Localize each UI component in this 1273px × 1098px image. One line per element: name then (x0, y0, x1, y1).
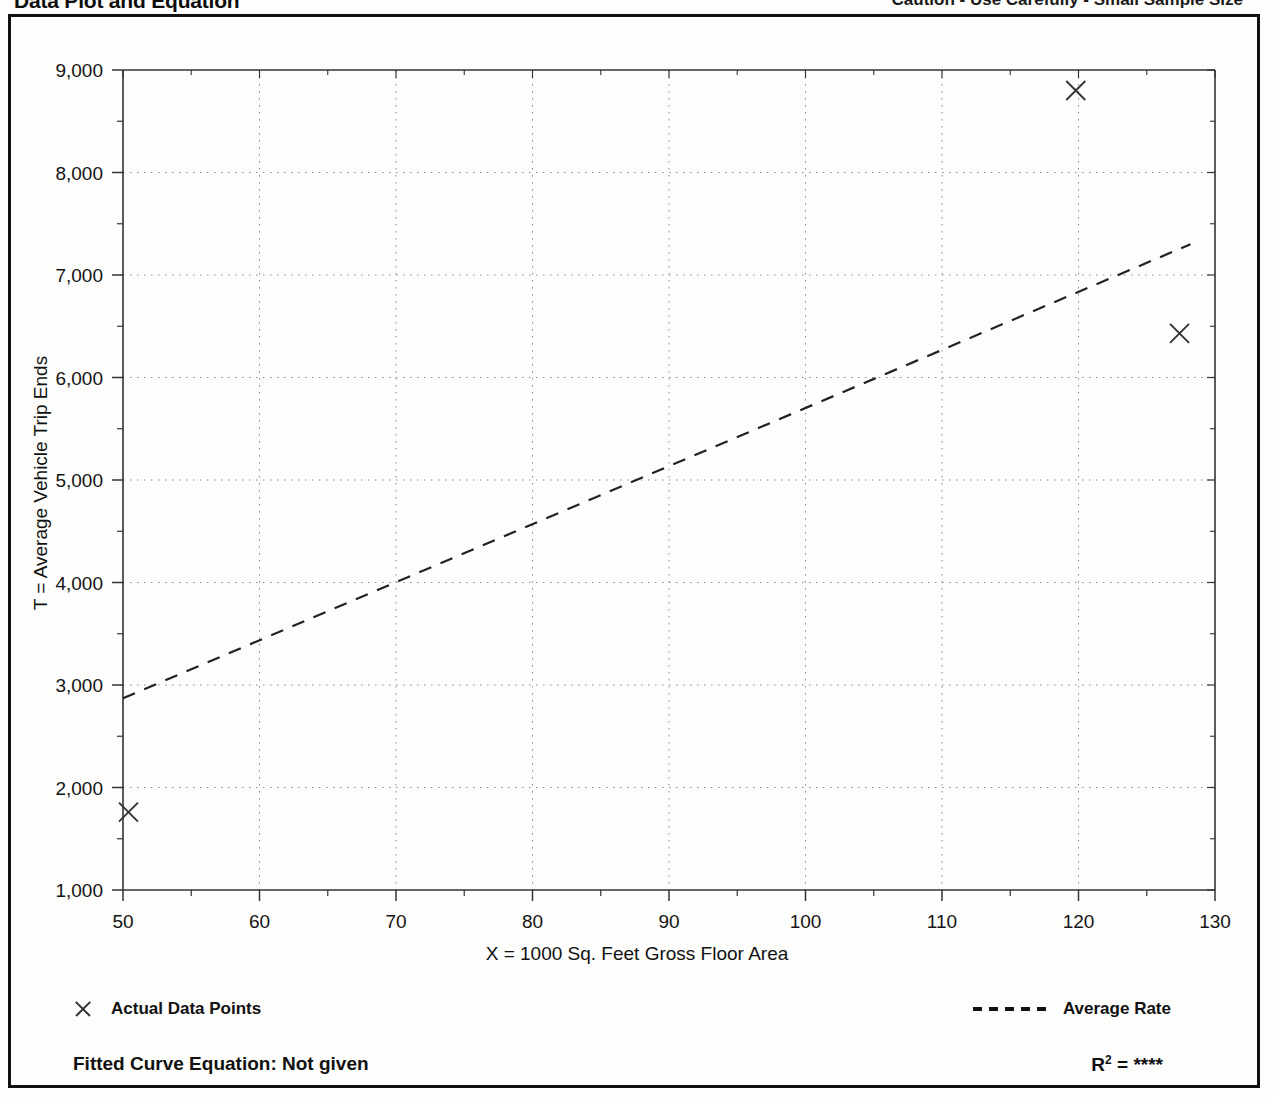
page-title: Data Plot and Equation (14, 0, 239, 13)
fitted-curve-equation: Fitted Curve Equation: Not given (73, 1053, 369, 1075)
x-tick-labels: 5060708090100110120130 (112, 911, 1230, 932)
axis-ticks (112, 70, 1215, 901)
r-squared-value: R2 = **** (1091, 1053, 1163, 1076)
x-tick-label: 90 (658, 911, 679, 932)
chart-page: Data Plot and Equation Caution - Use Car… (0, 0, 1273, 1098)
scatter-plot-svg: 5060708090100110120130 1,0002,0003,0004,… (11, 17, 1263, 1091)
x-tick-label: 80 (522, 911, 543, 932)
x-tick-label: 60 (249, 911, 270, 932)
y-tick-label: 4,000 (55, 573, 103, 594)
legend-label-average-rate: Average Rate (1063, 999, 1171, 1019)
legend-item-average-rate: Average Rate (973, 999, 1171, 1019)
plot-area: 5060708090100110120130 1,0002,0003,0004,… (11, 17, 1263, 1091)
trendline-segment (123, 244, 1190, 698)
caution-note: Caution - Use Carefully - Small Sample S… (892, 0, 1243, 10)
data-point-x-marker (119, 803, 138, 822)
x-tick-label: 50 (112, 911, 133, 932)
x-tick-label: 70 (385, 911, 406, 932)
y-tick-label: 6,000 (55, 368, 103, 389)
x-axis-title: X = 1000 Sq. Feet Gross Floor Area (11, 943, 1263, 965)
average-rate-trendline (123, 244, 1190, 698)
dashed-line-icon (973, 1007, 1047, 1011)
x-tick-label: 110 (927, 911, 957, 932)
x-tick-label: 120 (1063, 911, 1095, 932)
x-marker-icon (73, 999, 93, 1019)
chart-frame: 5060708090100110120130 1,0002,0003,0004,… (8, 14, 1260, 1088)
r-squared-number: = **** (1117, 1054, 1163, 1075)
data-point-x-marker (1066, 81, 1085, 100)
y-axis-title: T = Average Vehicle Trip Ends (30, 253, 52, 713)
y-tick-labels: 1,0002,0003,0004,0005,0006,0007,0008,000… (55, 60, 103, 901)
x-tick-label: 100 (790, 911, 822, 932)
data-point-x-marker (1170, 324, 1189, 343)
y-tick-label: 1,000 (55, 880, 103, 901)
chart-legend: Actual Data Points Average Rate (11, 999, 1263, 1025)
horizontal-gridlines (123, 173, 1215, 788)
x-tick-label: 130 (1199, 911, 1231, 932)
data-point-markers (119, 81, 1189, 822)
y-tick-label: 7,000 (55, 265, 103, 286)
y-tick-label: 5,000 (55, 470, 103, 491)
r-squared-exponent: 2 (1105, 1053, 1112, 1067)
legend-label-data-points: Actual Data Points (111, 999, 261, 1019)
y-tick-label: 3,000 (55, 675, 103, 696)
r-squared-prefix: R (1091, 1054, 1105, 1075)
y-tick-label: 2,000 (55, 778, 103, 799)
legend-item-data-points: Actual Data Points (73, 999, 261, 1019)
y-tick-label: 8,000 (55, 163, 103, 184)
chart-footer: Fitted Curve Equation: Not given R2 = **… (11, 1053, 1263, 1079)
y-tick-label: 9,000 (55, 60, 103, 81)
